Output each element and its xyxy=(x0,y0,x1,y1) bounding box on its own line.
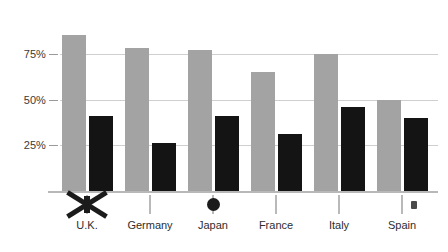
bar xyxy=(404,118,428,191)
legend-item: Japan xyxy=(185,196,241,231)
x-axis-category-label: France xyxy=(248,219,304,231)
x-axis-category-label: U.K. xyxy=(59,219,115,231)
legend-item: France xyxy=(248,196,304,231)
legend-item: Germany xyxy=(122,196,178,231)
y-axis-tick-label: 25% xyxy=(24,139,46,151)
legend-item: U.K. xyxy=(59,196,115,231)
bar xyxy=(278,134,302,191)
flag-italy-icon xyxy=(338,195,340,214)
y-axis-tick-label: 50% xyxy=(24,94,46,106)
bar-group xyxy=(377,8,440,191)
bar-group xyxy=(188,8,251,191)
legend-item: Italy xyxy=(311,196,367,231)
flag-spain-icon xyxy=(401,195,403,214)
bar-group xyxy=(125,8,188,191)
y-axis-tick xyxy=(49,100,58,101)
y-axis-tick xyxy=(49,145,58,146)
y-axis-tick-label: 75% xyxy=(24,48,46,60)
flag-japan-icon xyxy=(212,195,214,214)
x-axis-category-label: Japan xyxy=(185,219,241,231)
plot-area: 75%50%25% xyxy=(60,8,438,191)
bar xyxy=(251,72,275,191)
bar xyxy=(215,116,239,191)
flag-uk-icon xyxy=(86,195,88,214)
x-axis-category-label: Germany xyxy=(122,219,178,231)
bar xyxy=(152,143,176,191)
bar-group xyxy=(62,8,125,191)
legend-item: Spain xyxy=(374,196,430,231)
x-axis-category-label: Italy xyxy=(311,219,367,231)
bar-chart: 75%50%25% U.K.GermanyJapanFranceItalySpa… xyxy=(0,0,448,252)
bar xyxy=(377,100,401,192)
bar xyxy=(125,48,149,191)
bar xyxy=(341,107,365,191)
flag-germany-icon xyxy=(149,195,151,214)
bar xyxy=(188,50,212,191)
bar xyxy=(89,116,113,191)
flag-france-icon xyxy=(275,195,277,214)
bar-group xyxy=(314,8,377,191)
y-axis-tick xyxy=(49,54,58,55)
bar xyxy=(62,35,86,191)
bar xyxy=(314,54,338,191)
bar-group xyxy=(251,8,314,191)
x-axis-category-label: Spain xyxy=(374,219,430,231)
category-legend: U.K.GermanyJapanFranceItalySpain xyxy=(60,196,438,248)
